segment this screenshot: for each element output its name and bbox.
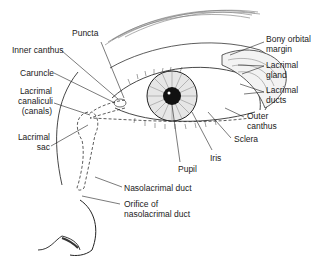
label-nasolacrimal-duct: Nasolacrimal duct [124, 183, 192, 193]
label-lacrimal-canaliculi: Lacrimal canaliculi (canals) [18, 86, 52, 116]
label-lacrimal-sac: Lacrimal sac [14, 132, 50, 152]
label-puncta: Puncta [72, 28, 98, 38]
lacrimal-sac-outline [77, 112, 98, 190]
nose-outline [70, 200, 96, 255]
label-lacrimal-gland: Lacrimal gland [266, 60, 298, 80]
label-sclera: Sclera [234, 134, 258, 144]
eyebrow [105, 10, 260, 45]
label-outer-canthus: Outer canthus [247, 111, 277, 131]
label-caruncle: Caruncle [20, 68, 54, 78]
label-iris: Iris [210, 153, 221, 163]
pupil-shape [163, 87, 181, 105]
label-bony-orbital-margin: Bony orbital margin [266, 34, 311, 54]
face-outline [57, 72, 78, 185]
label-pupil: Pupil [178, 164, 197, 174]
label-inner-canthus: Inner canthus [12, 45, 64, 55]
label-lacrimal-ducts: Lacrimal ducts [266, 85, 298, 105]
label-orifice-nasolacrimal-duct: Orifice of nasolacrimal duct [124, 199, 190, 219]
